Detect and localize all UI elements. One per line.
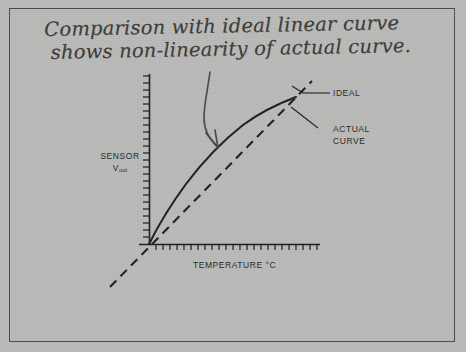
- figure-page: Comparison with ideal linear curve shows…: [0, 0, 466, 352]
- y-axis-label: SENSOR Vout: [92, 150, 148, 176]
- x-axis-ticks: [156, 245, 317, 251]
- ideal-leader-line-angled: [292, 86, 303, 93]
- ideal-line-series: [110, 81, 312, 287]
- nonlinearity-arrow-icon: [204, 72, 218, 148]
- handwritten-caption: Comparison with ideal linear curve shows…: [44, 11, 435, 64]
- y-axis-label-main: SENSOR: [100, 151, 139, 161]
- y-axis-label-sub: out: [119, 167, 127, 173]
- ideal-series-label: IDEAL: [333, 88, 360, 98]
- actual-curve-series-label: ACTUAL CURVE: [333, 124, 370, 147]
- x-axis-label: TEMPERATURE °C: [193, 260, 276, 270]
- actual-curve-series: [149, 97, 296, 244]
- actual-leader-line: [291, 107, 318, 128]
